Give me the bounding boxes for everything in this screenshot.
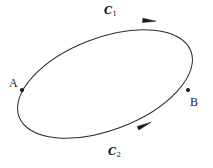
point-marker-a — [20, 88, 24, 92]
figure-canvas: A B C1 C2 — [0, 0, 213, 168]
point-label-a: A — [9, 77, 18, 89]
arrowhead-c1 — [143, 18, 157, 22]
curve-label-c1: C1 — [104, 5, 117, 18]
curve-label-c1-subscript: 1 — [112, 10, 116, 18]
point-label-b: B — [190, 96, 198, 108]
curve-label-c2-letter: C — [108, 145, 116, 157]
curve-diagram-svg — [0, 0, 213, 168]
closed-curve-ellipse — [3, 8, 208, 160]
curve-label-c1-letter: C — [104, 4, 112, 16]
curve-label-c2: C2 — [108, 146, 121, 159]
curve-label-c2-subscript: 2 — [116, 151, 120, 159]
closed-curve-group — [3, 8, 208, 160]
point-marker-b — [186, 88, 190, 92]
arrowhead-c2 — [137, 122, 151, 130]
